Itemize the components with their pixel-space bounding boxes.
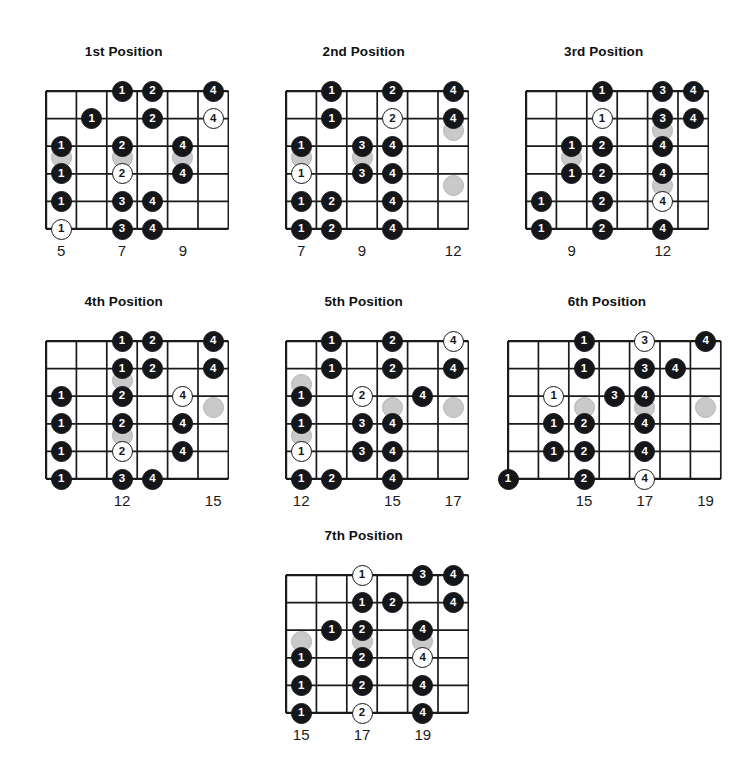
fretboard-grid: 124124134134124124 <box>285 90 467 228</box>
open-note-dot: 1 <box>51 219 72 240</box>
filled-note-dot: 4 <box>443 81 464 102</box>
open-note-dot: 1 <box>352 565 373 586</box>
filled-note-dot: 2 <box>592 163 613 184</box>
filled-note-dot: 4 <box>382 191 403 212</box>
filled-note-dot: 2 <box>382 358 403 379</box>
fretboard-diagram-2: 2nd Position1241241341341241247912 <box>260 44 497 278</box>
fretboard-grid: 134134124124124124 <box>525 90 707 228</box>
filled-note-dot: 1 <box>592 81 613 102</box>
fret-number-label: 9 <box>552 242 592 259</box>
fret-number-label: 12 <box>281 492 321 509</box>
filled-note-dot: 1 <box>51 469 72 490</box>
filled-note-dot: 4 <box>142 469 163 490</box>
filled-note-dot: 4 <box>695 331 716 352</box>
open-note-dot: 4 <box>172 386 193 407</box>
fret-number-label: 7 <box>281 242 321 259</box>
fretboard-grid: 124124124124124134 <box>45 340 227 478</box>
open-note-dot: 1 <box>291 441 312 462</box>
filled-note-dot: 4 <box>443 358 464 379</box>
filled-note-dot: 1 <box>352 592 373 613</box>
filled-note-dot: 4 <box>443 108 464 129</box>
fret-number-label: 5 <box>41 242 81 259</box>
filled-note-dot: 3 <box>112 219 133 240</box>
filled-note-dot: 4 <box>412 620 433 641</box>
fretboard-diagram-5: 5th Position124124124134134124121517 <box>260 294 497 528</box>
filled-note-dot: 4 <box>203 358 224 379</box>
fretboard-diagram-6: 6th Position134134134124124124151719 <box>494 294 750 528</box>
filled-note-dot: 3 <box>412 565 433 586</box>
filled-note-dot: 2 <box>142 331 163 352</box>
filled-note-dot: 1 <box>291 703 312 724</box>
filled-note-dot: 3 <box>352 163 373 184</box>
fretboard-grid: 124124124134134124 <box>285 340 467 478</box>
filled-note-dot: 3 <box>112 191 133 212</box>
fret-number-label: 12 <box>643 242 683 259</box>
filled-note-dot: 2 <box>574 469 595 490</box>
filled-note-dot: 4 <box>382 136 403 157</box>
filled-note-dot: 2 <box>592 219 613 240</box>
filled-note-dot: 1 <box>51 163 72 184</box>
filled-note-dot: 3 <box>352 413 373 434</box>
diagram-title: 1st Position <box>20 44 227 59</box>
filled-note-dot: 1 <box>112 331 133 352</box>
gray-note-dot <box>443 175 464 196</box>
fretboard-diagram-4: 4th Position1241241241241241341215 <box>20 294 257 528</box>
fret-number-label: 15 <box>372 492 412 509</box>
open-note-dot: 2 <box>112 441 133 462</box>
filled-note-dot: 4 <box>665 358 686 379</box>
filled-note-dot: 1 <box>543 441 564 462</box>
filled-note-dot: 4 <box>203 81 224 102</box>
grid-lines <box>285 574 469 714</box>
diagram-title: 6th Position <box>494 294 720 309</box>
filled-note-dot: 4 <box>443 592 464 613</box>
filled-note-dot: 1 <box>531 191 552 212</box>
filled-note-dot: 3 <box>652 81 673 102</box>
open-note-dot: 1 <box>592 108 613 129</box>
grid-lines <box>507 340 722 480</box>
open-note-dot: 2 <box>352 703 373 724</box>
fret-number-label: 15 <box>564 492 604 509</box>
filled-note-dot: 1 <box>291 386 312 407</box>
filled-note-dot: 1 <box>291 647 312 668</box>
fret-number-label: 12 <box>102 492 142 509</box>
fret-number-label: 19 <box>686 492 726 509</box>
open-note-dot: 2 <box>382 108 403 129</box>
filled-note-dot: 4 <box>652 136 673 157</box>
open-note-dot: 2 <box>112 163 133 184</box>
filled-note-dot: 4 <box>382 219 403 240</box>
fret-number-label: 15 <box>193 492 233 509</box>
filled-note-dot: 1 <box>51 413 72 434</box>
filled-note-dot: 1 <box>574 358 595 379</box>
open-note-dot: 4 <box>203 108 224 129</box>
filled-note-dot: 4 <box>412 386 433 407</box>
filled-note-dot: 1 <box>112 358 133 379</box>
filled-note-dot: 3 <box>352 441 373 462</box>
fretboard-diagram-7: 7th Position134124124124124124151719 <box>260 528 497 762</box>
grid-lines <box>45 340 229 480</box>
fret-number-label: 9 <box>342 242 382 259</box>
filled-note-dot: 4 <box>634 386 655 407</box>
filled-note-dot: 2 <box>352 675 373 696</box>
filled-note-dot: 1 <box>51 386 72 407</box>
fret-number-label: 19 <box>403 726 443 743</box>
filled-note-dot: 2 <box>382 592 403 613</box>
open-note-dot: 4 <box>443 331 464 352</box>
filled-note-dot: 1 <box>531 219 552 240</box>
filled-note-dot: 1 <box>321 331 342 352</box>
filled-note-dot: 4 <box>142 191 163 212</box>
open-note-dot: 4 <box>634 469 655 490</box>
filled-note-dot: 1 <box>51 441 72 462</box>
filled-note-dot: 4 <box>652 219 673 240</box>
filled-note-dot: 2 <box>321 219 342 240</box>
open-note-dot: 3 <box>634 331 655 352</box>
filled-note-dot: 4 <box>412 703 433 724</box>
filled-note-dot: 1 <box>291 191 312 212</box>
filled-note-dot: 1 <box>51 191 72 212</box>
filled-note-dot: 2 <box>142 81 163 102</box>
filled-note-dot: 2 <box>382 81 403 102</box>
filled-note-dot: 1 <box>112 81 133 102</box>
open-note-dot: 1 <box>543 386 564 407</box>
filled-note-dot: 4 <box>683 108 704 129</box>
filled-note-dot: 2 <box>112 413 133 434</box>
filled-note-dot: 4 <box>683 81 704 102</box>
